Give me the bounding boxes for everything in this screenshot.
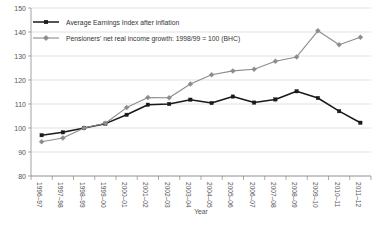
- legend-label: Average Earnings Index after inflation: [66, 19, 179, 27]
- x-tick-label: 2004–05: [206, 182, 213, 208]
- x-tick-label: 2010–11: [334, 182, 341, 208]
- x-tick-label: 2008–09: [291, 182, 298, 208]
- data-point-marker: [210, 101, 213, 104]
- series-2: [39, 28, 363, 144]
- data-point-marker: [273, 59, 278, 64]
- data-point-marker: [358, 35, 363, 40]
- data-point-marker: [209, 72, 214, 77]
- data-point-marker: [60, 136, 65, 141]
- x-tick-label: 1997–98: [57, 182, 64, 208]
- data-point-marker: [43, 35, 48, 40]
- y-tick-label: 140: [14, 29, 26, 36]
- data-point-marker: [125, 113, 128, 116]
- y-tick-label: 110: [15, 101, 26, 108]
- legend-label: Pensioners' net real income growth: 1998…: [66, 35, 240, 43]
- data-point-marker: [231, 95, 234, 98]
- x-tick-label: 2002–03: [164, 182, 171, 208]
- y-axis-tick-labels: 8090100110120130140150: [14, 5, 26, 180]
- data-point-marker: [274, 98, 277, 101]
- data-point-marker: [252, 101, 255, 104]
- y-tick-label: 80: [18, 173, 26, 180]
- x-tick-label: 2001–02: [142, 182, 149, 208]
- chart-container: 8090100110120130140150 1996–971997–98199…: [0, 0, 378, 226]
- data-point-marker: [359, 121, 362, 124]
- x-tick-label: 1996–97: [36, 182, 43, 208]
- data-point-marker: [44, 20, 48, 24]
- x-tick-label: 2000–01: [121, 182, 128, 208]
- series-line: [42, 31, 361, 142]
- y-tick-label: 120: [14, 77, 26, 84]
- data-point-marker: [230, 68, 235, 73]
- x-tick-label: 2006–07: [249, 182, 256, 208]
- x-tick-label: 2011–12: [355, 182, 362, 208]
- x-axis-title: Year: [194, 208, 208, 215]
- data-point-marker: [39, 139, 44, 144]
- series-line: [42, 91, 361, 135]
- data-series: [39, 28, 363, 144]
- legend-item-2[interactable]: Pensioners' net real income growth: 1998…: [33, 35, 240, 43]
- data-point-marker: [337, 110, 340, 113]
- y-tick-label: 150: [14, 5, 26, 12]
- x-tick-label: 2009–10: [312, 182, 319, 208]
- data-point-marker: [167, 102, 170, 105]
- line-chart: 8090100110120130140150 1996–971997–98199…: [0, 0, 378, 226]
- x-axis-tick-labels: 1996–971997–981998–991999–002000–012001–…: [36, 182, 362, 208]
- x-tick-label: 2005–06: [227, 182, 234, 208]
- data-point-marker: [252, 67, 257, 72]
- y-tick-label: 100: [14, 125, 26, 132]
- y-tick-label: 130: [14, 53, 26, 60]
- data-point-marker: [295, 90, 298, 93]
- x-tick-label: 1998–99: [79, 182, 86, 208]
- legend-item-1[interactable]: Average Earnings Index after inflation: [33, 19, 179, 27]
- data-point-marker: [189, 98, 192, 101]
- chart-legend: Average Earnings Index after inflationPe…: [33, 19, 240, 43]
- data-point-marker: [40, 134, 43, 137]
- data-point-marker: [61, 131, 64, 134]
- x-axis-title-text: Year: [194, 208, 208, 215]
- data-point-marker: [316, 96, 319, 99]
- series-1: [40, 90, 362, 137]
- data-point-marker: [145, 95, 150, 100]
- x-tick-label: 2003–04: [185, 182, 192, 208]
- gridlines: [31, 8, 371, 176]
- y-tick-label: 90: [18, 149, 26, 156]
- data-point-marker: [146, 103, 149, 106]
- x-tick-label: 1999–00: [100, 182, 107, 208]
- x-tick-label: 2007–08: [270, 182, 277, 208]
